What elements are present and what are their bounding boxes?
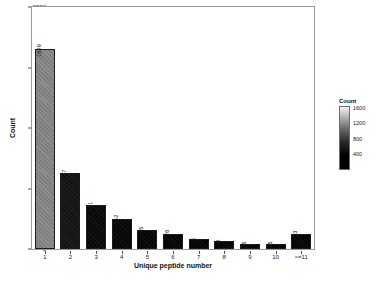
x-tick-mark xyxy=(250,251,251,254)
bar-value-label-text: 45 xyxy=(267,241,273,248)
bar-value-label: 361 xyxy=(91,201,97,211)
legend-tick-label: 1200 xyxy=(353,120,365,126)
legend-body: 16001200800400 xyxy=(338,106,386,172)
x-tick-label: 10 xyxy=(272,254,279,260)
x-tick-label: 1 xyxy=(43,254,46,260)
bar: 361 xyxy=(86,205,106,249)
x-tick-mark xyxy=(147,251,148,254)
x-tick-label: 8 xyxy=(223,254,226,260)
bar-value-label-text: 627 xyxy=(62,169,68,179)
bar: 64 xyxy=(214,241,234,249)
bar-hatch xyxy=(36,50,54,248)
x-tick-mark xyxy=(45,251,46,254)
x-tick-label: 9 xyxy=(248,254,251,260)
legend-tick-label: 1600 xyxy=(353,105,365,111)
x-tick-label: 3 xyxy=(94,254,97,260)
bar-value-label-text: 123 xyxy=(293,230,299,240)
x-tick-mark xyxy=(173,251,174,254)
legend-title: Count xyxy=(339,98,386,104)
bar: 126 xyxy=(163,234,183,249)
bar-value-label-text: 81 xyxy=(190,237,196,244)
bar-value-label: 1649 xyxy=(39,44,45,57)
x-tick-label: 4 xyxy=(120,254,123,260)
plot-area: 164962736125215512681644545123 xyxy=(32,7,314,249)
bar-value-label: 155 xyxy=(142,226,148,236)
bar-value-label: 45 xyxy=(244,241,250,248)
bar: 252 xyxy=(112,219,132,249)
plot-panel: 164962736125215512681644545123 xyxy=(31,6,315,250)
bar-value-label: 126 xyxy=(167,230,173,240)
bar: 155 xyxy=(137,230,157,249)
x-tick-label: 5 xyxy=(146,254,149,260)
bar: 45 xyxy=(240,244,260,249)
legend-tick-label: 400 xyxy=(353,151,362,157)
x-axis-title: Unique peptide number xyxy=(134,262,212,269)
bar: 123 xyxy=(291,234,311,249)
y-axis-title: Count xyxy=(9,118,16,138)
x-tick-mark xyxy=(199,251,200,254)
bar-value-label-text: 252 xyxy=(113,215,119,225)
bar-value-label-text: 45 xyxy=(241,241,247,248)
bar-value-label: 627 xyxy=(65,169,71,179)
chart-root: Count 0500100015002000 16496273612521551… xyxy=(0,0,386,288)
x-tick-label: 7 xyxy=(197,254,200,260)
bar-hatch xyxy=(87,206,105,248)
bar-value-label-text: 1649 xyxy=(36,44,42,57)
x-tick-label: 6 xyxy=(171,254,174,260)
bar-hatch xyxy=(61,174,79,248)
bar-value-label-text: 64 xyxy=(216,239,222,246)
legend: Count 16001200800400 xyxy=(338,98,386,172)
x-tick-mark xyxy=(96,251,97,254)
legend-colorbar xyxy=(339,106,350,170)
bar-value-label: 252 xyxy=(116,215,122,225)
x-tick-mark xyxy=(224,251,225,254)
bar-value-label-text: 126 xyxy=(164,230,170,240)
legend-tick-label: 800 xyxy=(353,136,362,142)
x-tick-mark xyxy=(70,251,71,254)
x-tick-mark xyxy=(276,251,277,254)
bar: 81 xyxy=(189,239,209,249)
bar: 1649 xyxy=(35,49,55,249)
bar: 627 xyxy=(60,173,80,249)
bar-value-label: 64 xyxy=(219,239,225,246)
x-tick-label: >=11 xyxy=(295,254,308,260)
bar-value-label-text: 361 xyxy=(88,201,94,211)
bar-value-label-text: 155 xyxy=(139,226,145,236)
bar-value-label: 123 xyxy=(296,230,302,240)
x-tick-mark xyxy=(301,251,302,254)
bar: 45 xyxy=(266,244,286,249)
x-tick-label: 2 xyxy=(69,254,72,260)
bar-value-label: 81 xyxy=(193,237,199,244)
x-tick-mark xyxy=(122,251,123,254)
bar-value-label: 45 xyxy=(270,241,276,248)
